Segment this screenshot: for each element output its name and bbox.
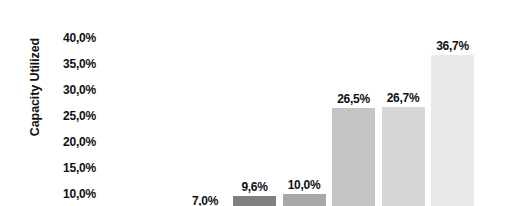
bar (431, 55, 474, 206)
y-axis-tick-labels: 40,0%35,0%30,0%25,0%20,0%15,0%10,0% (44, 0, 96, 206)
y-axis-title: Capacity Utilized (27, 27, 43, 147)
bar-value-label: 26,7% (371, 92, 435, 104)
y-axis-tick: 20,0% (44, 136, 96, 148)
y-axis-tick: 30,0% (44, 84, 96, 96)
bar (283, 194, 326, 206)
y-axis-tick: 35,0% (44, 58, 96, 70)
y-axis-tick: 15,0% (44, 162, 96, 174)
bar (233, 196, 276, 206)
y-axis-tick: 10,0% (44, 188, 96, 200)
plot-area: 7,0%9,6%10,0%26,5%26,7%36,7% (100, 0, 509, 206)
bar-chart: Capacity Utilized 40,0%35,0%30,0%25,0%20… (0, 0, 509, 206)
bar-value-label: 10,0% (272, 179, 336, 191)
bar-value-label: 7,0% (173, 195, 237, 206)
y-axis-tick: 25,0% (44, 110, 96, 122)
bar (332, 108, 375, 206)
bar-value-label: 36,7% (421, 40, 485, 52)
y-axis-tick: 40,0% (44, 32, 96, 44)
bar (382, 107, 425, 206)
